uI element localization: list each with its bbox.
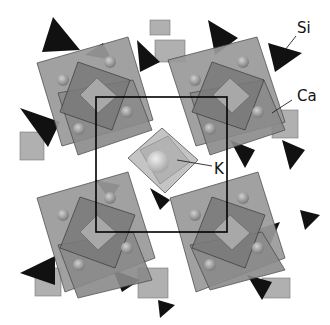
ca-atom <box>252 106 264 118</box>
si-leader-line <box>285 36 296 50</box>
ca-atom <box>204 123 216 135</box>
k-atom <box>147 151 169 173</box>
ca-cluster-top-left <box>37 37 153 155</box>
ca-atom <box>204 259 216 271</box>
ca-atom <box>252 242 264 254</box>
ca-atom <box>57 209 69 221</box>
ca-atom <box>237 192 249 204</box>
ca-atom <box>121 106 133 118</box>
ca-atom <box>57 74 69 86</box>
ca-atom <box>237 56 249 68</box>
k-polyhedron <box>128 128 198 193</box>
ca-atom <box>104 56 116 68</box>
ca-label: Ca <box>297 87 317 105</box>
crystal-structure-diagram: Si Ca K <box>0 0 330 325</box>
ca-atom <box>189 74 201 86</box>
ca-atom <box>189 209 201 221</box>
ca-atom <box>121 242 133 254</box>
ca-atom <box>73 123 85 135</box>
k-label: K <box>214 160 225 178</box>
ca-atom <box>104 192 116 204</box>
ca-atom <box>73 259 85 271</box>
si-label: Si <box>297 19 311 37</box>
